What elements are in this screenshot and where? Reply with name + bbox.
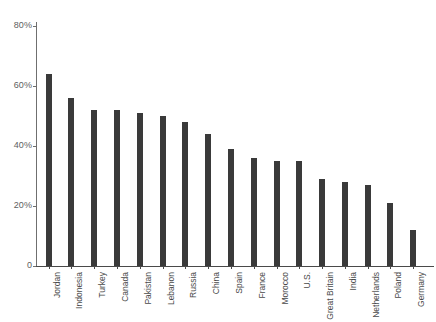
x-axis-category-label: Lebanon: [167, 272, 176, 305]
bar: [274, 161, 280, 266]
x-axis-tick: [322, 266, 323, 269]
x-axis-tick: [140, 266, 141, 269]
y-axis-tick: [33, 86, 36, 87]
x-axis-category-label: Great Britain: [326, 272, 335, 320]
y-axis-labels: 020%40%60%80%: [0, 0, 32, 322]
bar: [91, 110, 97, 266]
y-axis-tick: [33, 26, 36, 27]
bar: [137, 113, 143, 266]
x-axis-category-label: France: [258, 272, 267, 298]
bar: [160, 116, 166, 266]
y-axis-tick-label: 60%: [0, 81, 32, 90]
bar: [68, 98, 74, 266]
x-axis-category-label: Jordan: [53, 272, 62, 298]
x-axis-tick: [345, 266, 346, 269]
bar-chart: 020%40%60%80% JordanIndonesiaTurkeyCanad…: [0, 0, 436, 322]
bar: [251, 158, 257, 266]
y-axis-tick-label: 80%: [0, 21, 32, 30]
x-axis-category-label: Netherlands: [372, 272, 381, 318]
x-axis-category-label: Poland: [394, 272, 403, 298]
x-axis-category-label: China: [212, 272, 221, 294]
x-axis-category-label: Morocco: [281, 272, 290, 305]
y-axis-tick-label: 20%: [0, 201, 32, 210]
x-axis-category-label: Spain: [235, 272, 244, 294]
x-axis-tick: [390, 266, 391, 269]
x-axis-tick: [94, 266, 95, 269]
y-axis-tick: [33, 146, 36, 147]
x-axis-tick: [254, 266, 255, 269]
x-axis-tick: [71, 266, 72, 269]
y-axis-tick-label: 40%: [0, 141, 32, 150]
x-axis-tick: [368, 266, 369, 269]
x-axis-category-label: U.S.: [303, 272, 312, 289]
x-axis-tick: [163, 266, 164, 269]
bar: [387, 203, 393, 266]
x-axis-tick: [208, 266, 209, 269]
bar: [46, 74, 52, 266]
y-axis-tick: [33, 206, 36, 207]
bar: [365, 185, 371, 266]
bar: [342, 182, 348, 266]
bar: [182, 122, 188, 266]
x-axis-category-label: Pakistan: [144, 272, 153, 305]
x-axis-category-label: Canada: [121, 272, 130, 302]
bar: [296, 161, 302, 266]
x-axis-tick: [277, 266, 278, 269]
x-axis-tick: [49, 266, 50, 269]
x-axis-tick: [413, 266, 414, 269]
bar: [114, 110, 120, 266]
bar: [319, 179, 325, 266]
bar: [205, 134, 211, 266]
y-axis-tick-label: 0: [0, 261, 32, 270]
x-axis-tick: [299, 266, 300, 269]
x-axis-category-label: India: [349, 272, 358, 290]
x-axis-tick: [117, 266, 118, 269]
plot-area: JordanIndonesiaTurkeyCanadaPakistanLeban…: [36, 0, 436, 322]
y-axis-tick: [33, 266, 36, 267]
x-axis-category-label: Turkey: [98, 272, 107, 298]
bar: [410, 230, 416, 266]
x-axis-category-label: Germany: [417, 272, 426, 307]
x-axis-tick: [231, 266, 232, 269]
x-axis-category-label: Indonesia: [75, 272, 84, 309]
x-axis-tick: [185, 266, 186, 269]
x-axis-category-label: Russia: [189, 272, 198, 298]
bar: [228, 149, 234, 266]
